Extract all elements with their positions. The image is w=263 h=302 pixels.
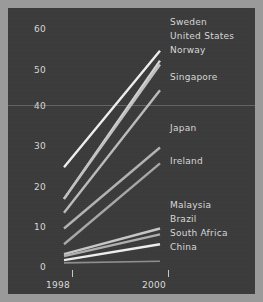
plot-panel: 60 50 40 30 20 10 0 1998 2000 Sweden Uni…	[8, 8, 255, 294]
series-label-sweden: Sweden	[170, 17, 207, 27]
chart-container: 60 50 40 30 20 10 0 1998 2000 Sweden Uni…	[0, 0, 263, 302]
series-label-malaysia: Malaysia	[170, 200, 211, 210]
series-label-china: China	[170, 242, 197, 252]
series-line-china	[64, 261, 160, 263]
series-line-norway	[64, 65, 160, 199]
series-label-united-states: United States	[170, 31, 234, 41]
series-label-south-africa: South Africa	[170, 228, 228, 238]
series-label-japan: Japan	[170, 123, 196, 133]
series-label-norway: Norway	[170, 45, 206, 55]
series-line-japan	[64, 148, 160, 229]
series-lines	[8, 8, 255, 294]
series-label-singapore: Singapore	[170, 72, 218, 82]
series-label-ireland: Ireland	[170, 156, 203, 166]
series-label-brazil: Brazil	[170, 214, 197, 224]
